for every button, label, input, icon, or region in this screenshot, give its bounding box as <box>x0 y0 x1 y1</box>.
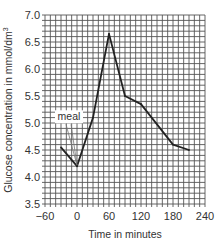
data-point <box>124 95 126 97</box>
y-axis-label-text: Glucose concentration in mmol/dm <box>2 31 14 193</box>
y-tick-label: 5.0 <box>25 117 40 129</box>
x-tick-label: 240 <box>196 210 214 222</box>
y-tick-label: 4.0 <box>25 171 40 183</box>
y-axis-label: Glucose concentration in mmol/dm3 <box>2 27 14 193</box>
x-tick-label: 180 <box>164 210 182 222</box>
x-axis-ticks: −60060120180240 <box>36 210 215 222</box>
y-tick-label: 3.5 <box>25 198 40 210</box>
x-tick-label: 120 <box>132 210 150 222</box>
y-tick-label: 6.5 <box>25 36 40 48</box>
y-tick-label: 5.5 <box>25 90 40 102</box>
data-point <box>108 33 110 35</box>
data-point <box>92 117 94 119</box>
y-tick-label: 4.5 <box>25 144 40 156</box>
y-tick-label: 7.0 <box>25 9 40 21</box>
y-axis-ticks: 3.54.04.55.05.56.06.57.0 <box>25 9 40 210</box>
data-point <box>76 165 78 167</box>
glucose-line-chart: 3.54.04.55.05.56.06.57.0 −60060120180240… <box>0 0 222 245</box>
data-point <box>140 103 142 105</box>
y-axis-label-superscript: 3 <box>2 27 9 31</box>
data-point <box>172 144 174 146</box>
data-point <box>188 149 190 151</box>
x-tick-label: 0 <box>74 210 80 222</box>
x-tick-label: −60 <box>36 210 55 222</box>
annotation-meal-label: meal <box>58 110 81 122</box>
y-tick-label: 6.0 <box>25 63 40 75</box>
data-point <box>60 146 62 148</box>
x-axis-label: Time in minutes <box>88 228 162 240</box>
x-tick-label: 60 <box>103 210 115 222</box>
